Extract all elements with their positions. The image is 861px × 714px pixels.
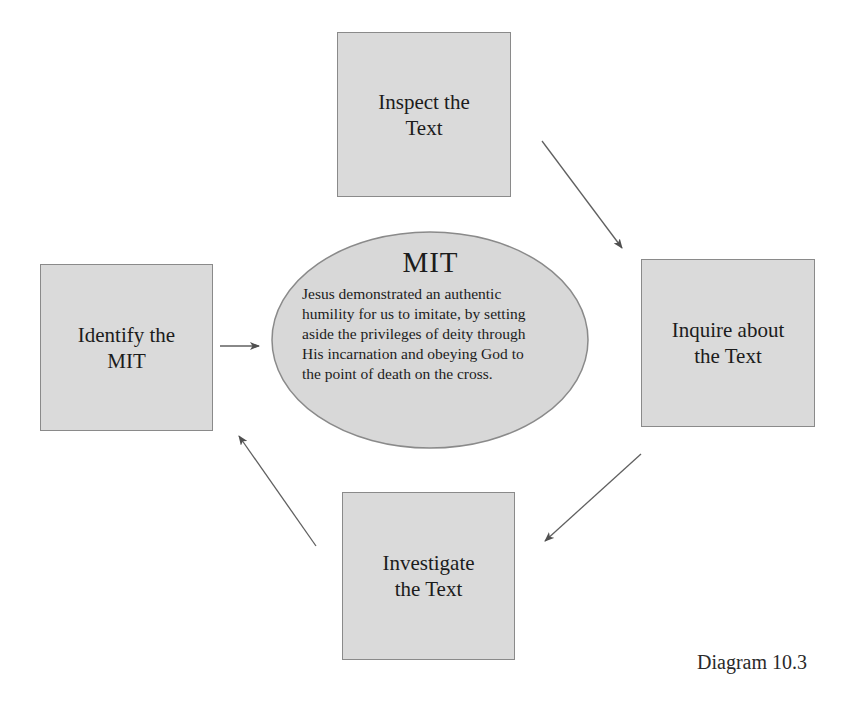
step-label-line: Text xyxy=(378,115,470,141)
mit-statement-line: humility for us to imitate, by setting xyxy=(302,304,567,324)
step-label-line: Inquire about xyxy=(672,317,785,343)
mit-title: MIT xyxy=(272,246,589,278)
step-box-investigate: Investigate the Text xyxy=(342,492,515,660)
mit-statement-line: aside the privileges of deity through xyxy=(302,324,567,344)
mit-statement-line: the point of death on the cross. xyxy=(302,364,567,384)
mit-statement-line: Jesus demonstrated an authentic xyxy=(302,284,567,304)
step-label-line: MIT xyxy=(78,348,175,374)
step-label-line: Investigate xyxy=(382,550,474,576)
mit-statement: Jesus demonstrated an authentic humility… xyxy=(272,284,589,384)
step-box-inspect: Inspect the Text xyxy=(337,32,511,197)
arrow-investigate-to-identify xyxy=(239,436,316,546)
step-label-line: the Text xyxy=(382,576,474,602)
mit-statement-line: His incarnation and obeying God to xyxy=(302,344,567,364)
step-label-line: the Text xyxy=(672,343,785,369)
step-label-line: Identify the xyxy=(78,322,175,348)
step-label-line: Inspect the xyxy=(378,89,470,115)
step-box-inquire: Inquire about the Text xyxy=(641,259,815,427)
diagram-caption: Diagram 10.3 xyxy=(697,650,807,674)
step-box-identify: Identify the MIT xyxy=(40,264,213,431)
mit-center: MIT Jesus demonstrated an authentic humi… xyxy=(272,232,589,449)
arrow-inquire-to-investigate xyxy=(545,454,641,541)
